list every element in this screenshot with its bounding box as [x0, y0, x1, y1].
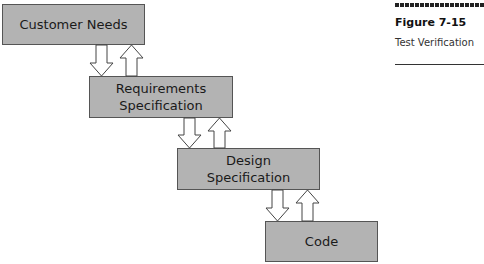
- figure-caption: Test Verification: [395, 37, 474, 48]
- down-arrow-icon: [90, 45, 113, 76]
- figure-label: Figure 7-15: [395, 16, 466, 29]
- up-arrow-icon: [208, 118, 231, 148]
- dotted-rule: [395, 3, 484, 7]
- down-arrow-icon: [178, 118, 201, 148]
- caption-rule: [395, 64, 484, 65]
- down-arrow-icon: [266, 190, 289, 221]
- up-arrow-icon: [120, 45, 143, 76]
- up-arrow-icon: [296, 190, 319, 221]
